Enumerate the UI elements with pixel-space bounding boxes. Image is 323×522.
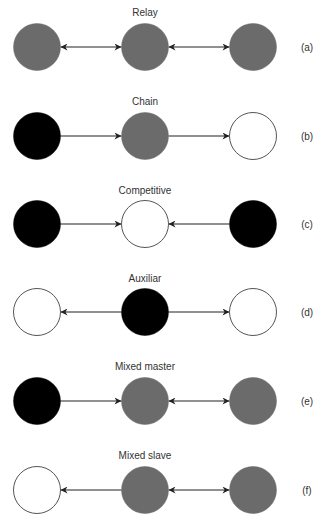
node-gray-circle-icon [122,24,169,71]
row-label: (a) [301,42,313,53]
node-gray-circle-icon [122,113,169,160]
row-title: Competitive [119,185,172,196]
node-gray-circle-icon [230,378,277,425]
node-gray-circle-icon [122,467,169,514]
row-label: (e) [301,396,313,407]
node-white-circle-icon [230,289,277,336]
node-black-circle-icon [122,289,169,336]
nodes [14,467,277,514]
node-gray-circle-icon [230,467,277,514]
row-label: (f) [302,485,311,496]
diagram-canvas: Relay (a) Chain (b) Competitive (c) Auxi… [0,0,323,522]
node-white-circle-icon [122,201,169,248]
node-gray-circle-icon [14,24,61,71]
row-auxiliar: Auxiliar (d) [14,273,314,336]
row-label: (b) [301,131,313,142]
row-title: Mixed master [115,361,176,372]
row-title: Mixed slave [119,450,172,461]
row-relay: Relay (a) [14,7,314,71]
node-white-circle-icon [230,113,277,160]
nodes [14,201,277,248]
row-chain: Chain (b) [14,96,314,160]
node-black-circle-icon [230,201,277,248]
node-gray-circle-icon [230,24,277,71]
row-mixed-slave: Mixed slave (f) [14,450,312,514]
row-competitive: Competitive (c) [14,185,313,248]
node-white-circle-icon [14,467,61,514]
node-gray-circle-icon [122,378,169,425]
row-title: Auxiliar [129,273,162,284]
nodes [14,113,277,160]
node-black-circle-icon [14,201,61,248]
nodes [14,289,277,336]
nodes [14,378,277,425]
row-label: (c) [301,219,313,230]
row-title: Relay [132,7,158,18]
node-black-circle-icon [14,378,61,425]
node-black-circle-icon [14,113,61,160]
row-mixed-master: Mixed master (e) [14,361,314,425]
node-white-circle-icon [14,289,61,336]
nodes [14,24,277,71]
row-label: (d) [301,307,313,318]
row-title: Chain [132,96,158,107]
